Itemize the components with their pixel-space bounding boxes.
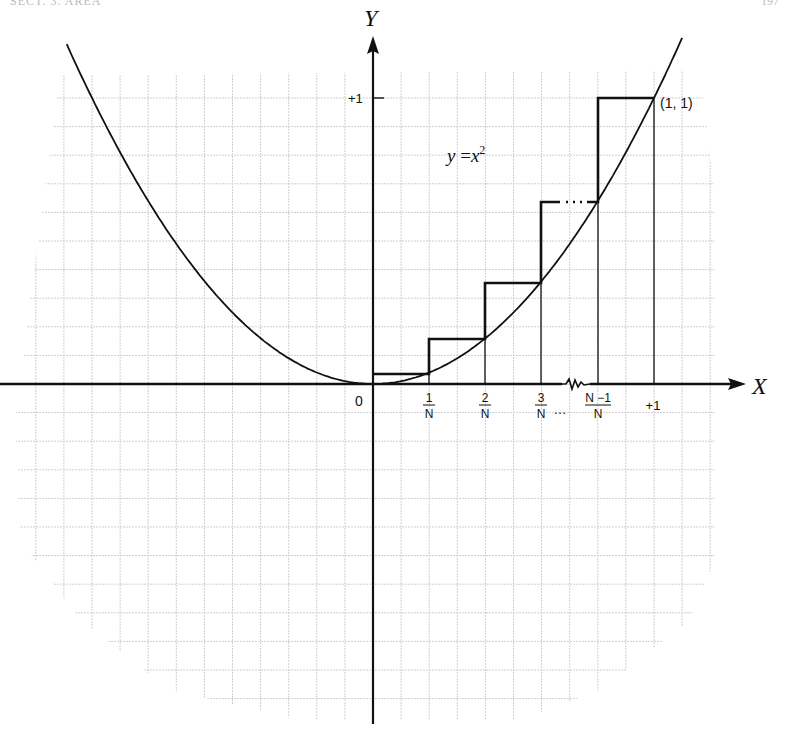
parabola-figure: Y X +1 0 y =x2 (1, 1) 1 N 2 N 3 N … N −1… [0, 0, 789, 733]
origin-label: 0 [355, 393, 363, 409]
svg-text:3: 3 [538, 391, 545, 405]
x-axis-label: X [751, 373, 768, 399]
svg-text:N: N [594, 407, 603, 421]
svg-text:N −1: N −1 [585, 391, 611, 405]
y-axis [367, 36, 384, 724]
parabola-curve [67, 38, 682, 384]
svg-text:N: N [481, 407, 490, 421]
svg-text:1: 1 [426, 391, 433, 405]
svg-text:N: N [425, 407, 434, 421]
y-tick-label: +1 [348, 91, 363, 106]
svg-text:2: 2 [482, 391, 489, 405]
tick-plus-1: +1 [646, 398, 661, 413]
axis-break-icon [562, 379, 590, 389]
tick-3-over-n: 3 N … [535, 391, 567, 421]
equation-label: y =x2 [445, 143, 485, 166]
svg-text:N: N [537, 407, 546, 421]
y-axis-label: Y [364, 5, 380, 31]
point-label: (1, 1) [660, 95, 693, 111]
svg-text:…: … [554, 402, 567, 417]
